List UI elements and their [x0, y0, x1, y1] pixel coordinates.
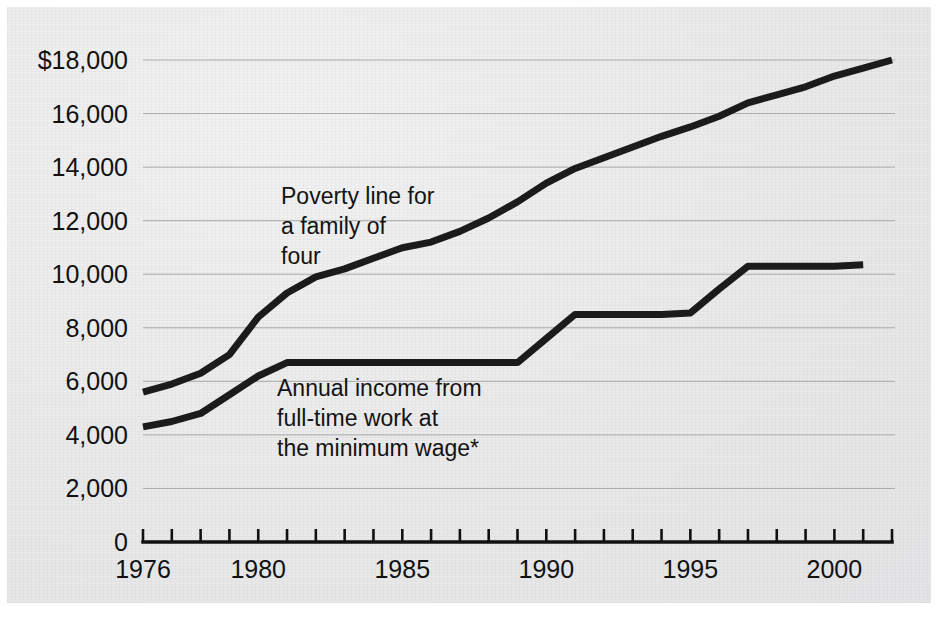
x-tick-label-1985: 1985 — [374, 555, 430, 583]
x-tick-label-1976: 1976 — [115, 555, 171, 583]
x-axis-line-and-ticks — [143, 529, 892, 542]
y-tick-label-4000: 4,000 — [65, 421, 128, 449]
line-chart: 02,0004,0006,0008,00010,00012,00014,0001… — [0, 0, 938, 618]
chart-annotations-group: Poverty line fora family offourAnnual in… — [277, 183, 482, 461]
x-tick-label-1995: 1995 — [663, 555, 719, 583]
y-axis-tick-labels: 02,0004,0006,0008,00010,00012,00014,0001… — [38, 46, 128, 556]
x-tick-label-1980: 1980 — [230, 555, 286, 583]
minimum-wage-annotation: Annual income fromfull-time work atthe m… — [277, 375, 482, 461]
y-tick-label-10000: 10,000 — [52, 260, 128, 288]
poverty-line-annotation-line-3: four — [281, 243, 321, 269]
y-tick-label-8000: 8,000 — [65, 314, 128, 342]
y-tick-label-6000: 6,000 — [65, 367, 128, 395]
y-tick-label-2000: 2,000 — [65, 474, 128, 502]
y-tick-label-18000: $18,000 — [38, 46, 128, 74]
minimum-wage-annotation-line-1: Annual income from — [277, 375, 482, 401]
poverty-line-annotation: Poverty line fora family offour — [281, 183, 435, 269]
y-tick-label-16000: 16,000 — [52, 100, 128, 128]
minimum-wage-annotation-line-2: full-time work at — [277, 405, 439, 431]
chart-figure: 02,0004,0006,0008,00010,00012,00014,0001… — [0, 0, 938, 618]
x-tick-label-1990: 1990 — [518, 555, 574, 583]
poverty-line-series — [143, 60, 892, 392]
y-tick-label-0: 0 — [114, 528, 128, 556]
gridlines-group — [143, 60, 895, 488]
minimum-wage-annotation-line-3: the minimum wage* — [277, 435, 479, 461]
x-axis-tick-labels: 197619801985199019952000 — [115, 555, 862, 583]
poverty-line-annotation-line-2: a family of — [281, 213, 386, 239]
data-series-group — [143, 60, 892, 427]
poverty-line-annotation-line-1: Poverty line for — [281, 183, 435, 209]
minimum-wage-series — [143, 265, 863, 427]
y-tick-label-14000: 14,000 — [52, 153, 128, 181]
x-tick-label-2000: 2000 — [807, 555, 863, 583]
y-tick-label-12000: 12,000 — [52, 207, 128, 235]
